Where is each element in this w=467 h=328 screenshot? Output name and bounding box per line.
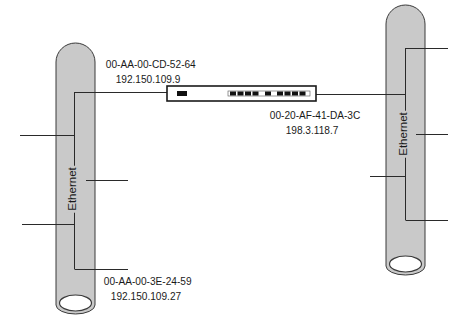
- node-2-mac: 00-20-AF-41-DA-3C: [270, 108, 354, 123]
- node-1-ip: 192.150.109.9: [106, 72, 190, 87]
- node-3-ip: 192.150.109.27: [104, 289, 188, 304]
- node-1-address-label: 00-AA-00-CD-52-64 192.150.109.9: [106, 57, 190, 87]
- node-2-ip: 198.3.118.7: [270, 123, 354, 138]
- node-3-mac: 00-AA-00-3E-24-59: [104, 274, 188, 289]
- left-ethernet-label: Ethernet: [66, 165, 78, 212]
- right-ethernet-label: Ethernet: [397, 110, 409, 157]
- switch-status-led: [177, 91, 187, 96]
- network-diagram: [0, 0, 467, 328]
- node-3-address-label: 00-AA-00-3E-24-59 192.150.109.27: [104, 274, 188, 304]
- switch-device: [167, 86, 316, 101]
- node-2-address-label: 00-20-AF-41-DA-3C 198.3.118.7: [270, 108, 354, 138]
- node-1-mac: 00-AA-00-CD-52-64: [106, 57, 190, 72]
